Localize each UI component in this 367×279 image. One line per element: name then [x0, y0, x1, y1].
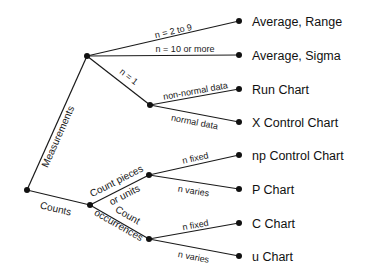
non-normal-label: non-normal data: [162, 80, 228, 101]
leaf-node-7: [236, 220, 242, 226]
normal-label: normal data: [170, 113, 219, 132]
leaf-node-8: [236, 253, 242, 259]
result-average-sigma: Average, Sigma: [252, 49, 341, 63]
leaf-node-1: [236, 18, 242, 24]
result-x-control-chart: X Control Chart: [252, 116, 339, 130]
result-average-range: Average, Range: [252, 15, 342, 29]
occ-n-varies-label: n varies: [177, 249, 210, 265]
n-1-label: n = 1: [118, 66, 140, 86]
result-c-chart: C Chart: [252, 217, 296, 231]
n-1-node: [147, 102, 153, 108]
result-u-chart: u Chart: [252, 250, 294, 264]
n-2-to-9-label: n = 2 to 9: [154, 22, 193, 40]
root-node: [24, 187, 30, 193]
count-occurrences-node: [146, 236, 152, 242]
measurements-label: Measurements: [39, 104, 76, 169]
result-run-chart: Run Chart: [252, 83, 309, 97]
edge-n-1: [87, 56, 150, 105]
leaf-node-4: [236, 119, 242, 125]
counts-label: Counts: [39, 200, 72, 218]
pieces-n-varies-label: n varies: [177, 184, 210, 199]
counts-node: [87, 202, 93, 208]
pieces-n-fixed-label: n fixed: [181, 150, 209, 166]
result-np-control-chart: np Control Chart: [252, 149, 344, 163]
leaf-node-3: [236, 86, 242, 92]
edge-n-10-or-more: [87, 55, 239, 56]
result-p-chart: P Chart: [252, 183, 295, 197]
measurements-node: [84, 53, 90, 59]
leaf-node-2: [236, 52, 242, 58]
count-pieces-node: [146, 172, 152, 178]
result-labels: Average, Range Average, Sigma Run Chart …: [252, 15, 344, 264]
leaf-node-5: [236, 152, 242, 158]
occ-n-fixed-label: n fixed: [182, 218, 210, 232]
n-10-or-more-label: n = 10 or more: [156, 44, 215, 54]
decision-tree-diagram: Measurements Counts n = 2 to 9 n = 10 or…: [0, 0, 367, 279]
edge-labels: Measurements Counts n = 2 to 9 n = 10 or…: [39, 22, 228, 265]
leaf-node-6: [236, 186, 242, 192]
